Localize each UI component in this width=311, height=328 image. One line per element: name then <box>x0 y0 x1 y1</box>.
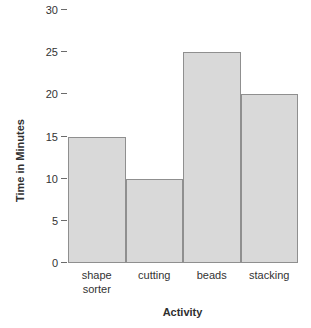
y-axis-tick-label: 15 <box>34 130 58 144</box>
bar-chart: Time in Minutes 051015202530 shapesorter… <box>0 0 311 328</box>
x-axis-label-line: shape <box>68 268 126 282</box>
bar <box>241 94 299 263</box>
y-axis-tick-mark <box>61 178 67 179</box>
y-axis-tick: 25 <box>28 45 68 59</box>
x-axis-label: stacking <box>241 268 299 282</box>
bar <box>126 179 184 263</box>
x-axis-label: cutting <box>126 268 184 282</box>
y-axis-tick-mark <box>61 93 67 94</box>
x-axis-title: Activity <box>0 306 311 318</box>
y-axis-tick: 15 <box>28 130 68 144</box>
x-axis-label: beads <box>183 268 241 282</box>
y-axis-tick-label: 25 <box>34 45 58 59</box>
y-axis-tick-label: 10 <box>34 172 58 186</box>
y-axis-tick: 10 <box>28 172 68 186</box>
y-axis-tick: 5 <box>28 214 68 228</box>
bar <box>68 137 126 264</box>
y-axis-tick: 0 <box>28 256 68 270</box>
y-axis-tick-label: 5 <box>34 214 58 228</box>
x-axis-label: shapesorter <box>68 268 126 296</box>
x-axis-label-line: stacking <box>241 268 299 282</box>
y-axis-tick-label: 20 <box>34 87 58 101</box>
x-axis-label-line: beads <box>183 268 241 282</box>
plot-area <box>68 10 298 263</box>
y-axis-tick-mark <box>61 220 67 221</box>
y-axis-tick-mark <box>61 136 67 137</box>
y-axis-tick-mark <box>61 262 67 263</box>
y-axis-tick-label: 0 <box>34 256 58 270</box>
y-axis-tick-mark <box>61 51 67 52</box>
y-axis-tick-mark <box>61 9 67 10</box>
bar <box>183 52 241 263</box>
y-axis-tick: 30 <box>28 3 68 17</box>
y-axis-tick: 20 <box>28 87 68 101</box>
x-axis-label-line: sorter <box>68 282 126 296</box>
x-axis-label-line: cutting <box>126 268 184 282</box>
y-axis-tick-label: 30 <box>34 3 58 17</box>
